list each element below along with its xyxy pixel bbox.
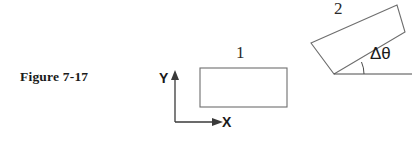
rectangle-2-shape (311, 5, 405, 74)
angle-arc (362, 62, 365, 74)
rectangle-1-label: 1 (236, 43, 245, 63)
rectangle-1-shape (200, 68, 287, 107)
y-axis-arrowhead (171, 70, 179, 80)
x-axis-label: X (222, 114, 231, 130)
figure-caption: Figure 7-17 (20, 69, 88, 85)
rectangle-2-label: 2 (334, 0, 343, 19)
figure-container: Figure 7-17 1 2 Y X Δθ (0, 0, 415, 145)
delta-theta-label: Δθ (370, 44, 391, 64)
y-axis-label: Y (159, 70, 168, 86)
coordinate-axes (171, 70, 223, 126)
